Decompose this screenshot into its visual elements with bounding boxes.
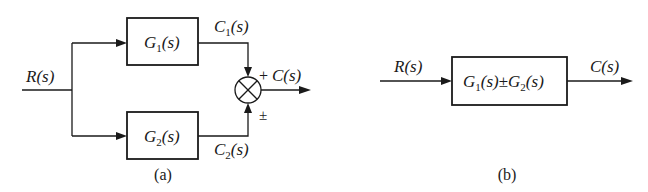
output-label-b: C(s) bbox=[590, 57, 620, 76]
diagram-b: R(s) G1(s)±G2(s) C(s) (b) bbox=[380, 57, 633, 184]
c1-line bbox=[198, 43, 248, 70]
block-g1-label: G1(s) bbox=[144, 33, 180, 54]
c2-label: C2(s) bbox=[214, 140, 249, 161]
input-label-b: R(s) bbox=[393, 57, 423, 76]
arrow-into-sum-bottom-icon bbox=[244, 103, 252, 113]
sum-bottom-sign: ± bbox=[259, 107, 267, 123]
summing-junction-icon bbox=[235, 77, 261, 103]
input-label-a: R(s) bbox=[25, 67, 55, 86]
output-label-a: C(s) bbox=[272, 66, 302, 85]
arrow-into-sum-top-icon bbox=[244, 67, 252, 77]
output-arrow-a-icon bbox=[299, 86, 311, 94]
sum-top-sign: + bbox=[259, 67, 268, 84]
c1-label: C1(s) bbox=[214, 17, 249, 38]
block-g2-label: G2(s) bbox=[144, 127, 180, 148]
arrow-into-g2-icon bbox=[116, 132, 127, 140]
block-diagram-canvas: R(s) G1(s) G2(s) C1(s) C2(s) bbox=[0, 0, 648, 192]
block-equivalent-label: G1(s)±G2(s) bbox=[463, 72, 544, 93]
diagram-a: R(s) G1(s) G2(s) C1(s) C2(s) bbox=[22, 17, 311, 184]
c2-line bbox=[198, 110, 248, 136]
output-arrow-b-icon bbox=[621, 77, 633, 85]
input-arrow-b-icon bbox=[441, 77, 452, 85]
caption-a: (a) bbox=[154, 166, 172, 184]
caption-b: (b) bbox=[498, 166, 517, 184]
arrow-into-g1-icon bbox=[116, 39, 127, 47]
